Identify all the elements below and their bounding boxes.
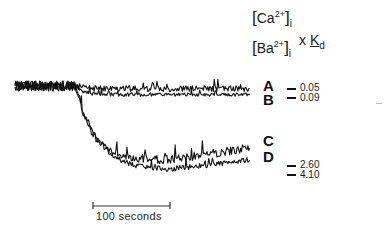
stray-mark xyxy=(376,103,382,104)
scale-bar xyxy=(93,202,170,209)
series-label-b: B xyxy=(263,92,274,107)
header-multiplier: x Kd xyxy=(299,32,325,51)
ratio-dash-a xyxy=(287,88,296,90)
header-numerator: [Ca2+]i xyxy=(252,8,292,29)
scale-bar-label: 100 seconds xyxy=(96,210,162,222)
ratio-value-d: 4.10 xyxy=(300,170,319,180)
traces-group xyxy=(15,79,250,171)
ratio-dash-b xyxy=(287,97,296,99)
ratio-dash-d xyxy=(287,174,296,176)
header-denominator: [Ba2+]i xyxy=(252,38,291,59)
ratio-dash-c xyxy=(287,165,296,167)
series-label-c: C xyxy=(263,133,274,148)
trace-figure xyxy=(0,0,391,231)
ratio-value-b: 0.09 xyxy=(300,93,319,103)
series-label-d: D xyxy=(263,149,274,164)
